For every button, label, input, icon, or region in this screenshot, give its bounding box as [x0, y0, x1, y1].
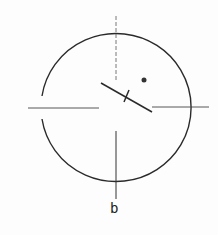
- figure-label: b: [110, 200, 118, 216]
- point-dot: [142, 78, 147, 83]
- diagram-figure: [0, 0, 218, 235]
- diagram-canvas: b: [0, 0, 218, 235]
- circle-arc: [42, 34, 191, 182]
